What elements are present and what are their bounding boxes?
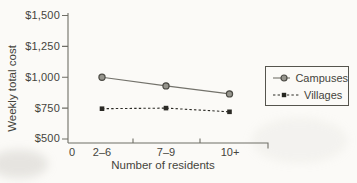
- x-category-label: 2–6: [82, 147, 122, 158]
- villages-marker: [100, 106, 105, 111]
- y-tick-label: $1,000: [14, 72, 60, 83]
- chart-container: $1,500 $1,250 $1,000 $750 $500 0 2–6 7–9…: [0, 0, 357, 183]
- x-axis-ticks: [133, 139, 200, 144]
- y-tick-label: $1,250: [14, 41, 60, 52]
- x-axis-title: Number of residents: [83, 160, 243, 171]
- villages-line-icon: [273, 90, 299, 100]
- villages-marker: [164, 106, 169, 111]
- x-origin-label: 0: [62, 147, 82, 158]
- legend-item-campuses: Campuses: [273, 72, 348, 84]
- campuses-marker: [226, 91, 232, 97]
- legend-label-campuses: Campuses: [295, 72, 348, 84]
- data-series: [99, 74, 233, 114]
- x-category-label: 7–9: [146, 147, 186, 158]
- x-category-label: 10+: [210, 147, 250, 158]
- y-tick-label: $500: [14, 133, 60, 144]
- legend-item-villages: Villages: [273, 89, 348, 101]
- campuses-marker: [99, 74, 105, 80]
- villages-marker: [227, 110, 232, 115]
- legend-label-villages: Villages: [304, 89, 342, 101]
- y-tick-label: $1,500: [14, 10, 60, 21]
- y-tick-label: $750: [14, 103, 60, 114]
- legend-box: Campuses Villages: [265, 66, 349, 106]
- campuses-marker: [163, 83, 169, 89]
- campuses-line-icon: [273, 73, 290, 83]
- y-axis-title: Weekly total cost: [7, 24, 20, 154]
- y-axis-ticks: [62, 16, 68, 140]
